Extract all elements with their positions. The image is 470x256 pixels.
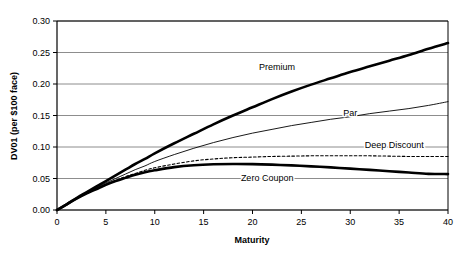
x-tick-label: 0: [54, 217, 59, 227]
y-tick-label: 0.05: [32, 174, 50, 184]
y-axis-title: DV01 (per $100 face): [9, 72, 19, 160]
series-label-zero-coupon: Zero Coupon: [241, 173, 294, 183]
x-tick-label: 30: [345, 217, 355, 227]
y-tick-label: 0.20: [32, 79, 50, 89]
y-tick-label: 0.10: [32, 142, 50, 152]
chart-canvas: 0.000.050.100.150.200.250.30 05101520253…: [0, 0, 470, 256]
series-label-premium: Premium: [259, 62, 295, 72]
dv01-maturity-chart: 0.000.050.100.150.200.250.30 05101520253…: [0, 0, 470, 256]
x-axis-ticks: 0510152025303540: [54, 210, 453, 227]
y-tick-label: 0.15: [32, 111, 50, 121]
x-tick-label: 40: [443, 217, 453, 227]
x-tick-label: 5: [103, 217, 108, 227]
y-tick-label: 0.00: [32, 205, 50, 215]
series-label-par: Par: [343, 108, 357, 118]
x-tick-label: 10: [150, 217, 160, 227]
x-tick-label: 25: [296, 217, 306, 227]
series-label-deep-discount: Deep Discount: [365, 140, 425, 150]
y-tick-label: 0.30: [32, 16, 50, 26]
x-tick-label: 15: [199, 217, 209, 227]
x-tick-label: 20: [247, 217, 257, 227]
x-tick-label: 35: [394, 217, 404, 227]
x-axis-title: Maturity: [234, 235, 269, 245]
y-axis-ticks: 0.000.050.100.150.200.250.30: [32, 16, 57, 215]
y-tick-label: 0.25: [32, 48, 50, 58]
